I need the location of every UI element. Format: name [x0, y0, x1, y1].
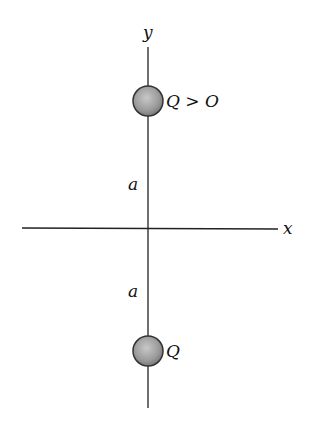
bottom-charge-label: Q	[166, 341, 180, 361]
bottom-charge	[133, 336, 163, 366]
upper-distance-label: a	[128, 174, 138, 194]
y-axis-label: y	[142, 22, 153, 42]
top-charge-label: Q > O	[166, 91, 219, 111]
x-axis-label: x	[283, 218, 293, 238]
coordinate-diagram: y x a a Q > O Q	[0, 0, 313, 431]
top-charge	[133, 86, 163, 116]
x-axis	[22, 228, 278, 229]
lower-distance-label: a	[128, 281, 138, 301]
